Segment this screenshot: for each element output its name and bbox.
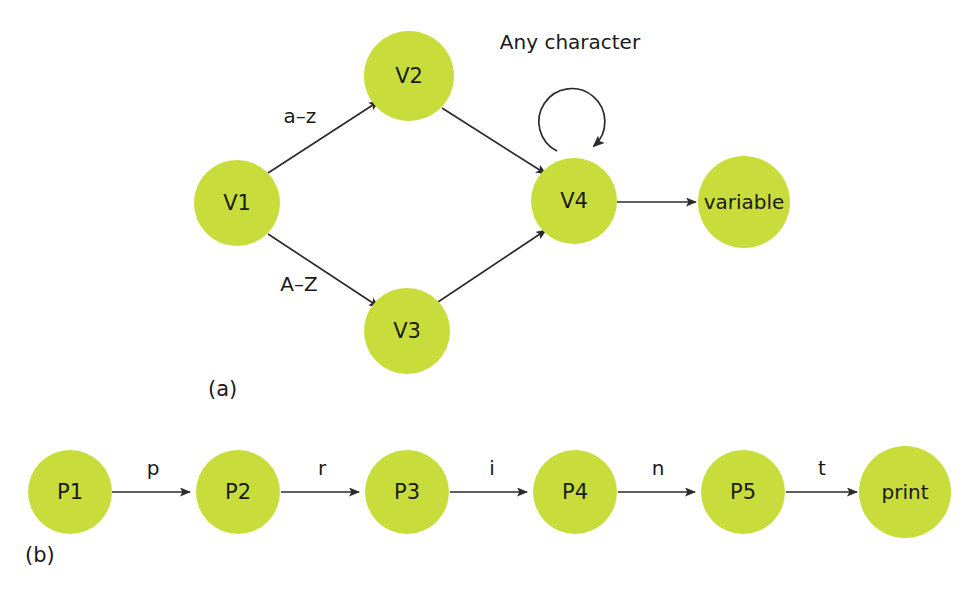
edge-label-r: r [318,456,327,480]
edge-label-A-Z: A–Z [280,272,317,296]
node-v4[interactable]: V4 [531,158,617,244]
panel-a-caption: (a) [208,377,237,401]
node-p3[interactable]: P3 [365,450,449,534]
node-v1-label: V1 [223,191,251,215]
node-v4-label: V4 [560,189,588,213]
node-variable-label: variable [704,190,785,214]
edge-v1-v3 [268,234,379,307]
figure-root: V1 V2 V3 V4 variable a–z A–Z Any charac [0,0,975,591]
node-p4-label: P4 [562,480,588,504]
node-print-label: print [882,480,929,504]
edge-label-n: n [652,456,665,480]
node-p2-label: P2 [225,480,251,504]
node-v1[interactable]: V1 [194,160,280,246]
edge-label-p: p [147,456,160,480]
node-p3-label: P3 [394,480,420,504]
edge-label-i: i [489,456,495,480]
node-p1[interactable]: P1 [28,450,112,534]
node-p5-label: P5 [730,480,756,504]
self-loop-v4 [539,89,605,151]
panel-a: V1 V2 V3 V4 variable a–z A–Z Any charac [194,30,790,401]
edge-v2-v4 [442,108,546,174]
edge-label-a-z: a–z [284,104,317,128]
node-v2-label: V2 [395,64,423,88]
node-v3[interactable]: V3 [364,288,450,374]
state-diagram-canvas: V1 V2 V3 V4 variable a–z A–Z Any charac [0,0,975,591]
edge-v3-v4 [438,230,546,302]
node-v3-label: V3 [393,319,421,343]
panel-a-edges [268,101,696,307]
node-print[interactable]: print [859,446,951,538]
panel-b: P1 P2 P3 P4 P5 print p [25,446,951,567]
edge-label-t: t [818,456,826,480]
node-p1-label: P1 [57,480,83,504]
node-variable[interactable]: variable [698,156,790,248]
node-p2[interactable]: P2 [196,450,280,534]
panel-b-caption: (b) [25,543,55,567]
node-v2[interactable]: V2 [364,31,454,121]
node-p5[interactable]: P5 [701,450,785,534]
self-loop-v4-arc [539,89,605,151]
self-loop-v4-label: Any character [500,30,641,54]
node-p4[interactable]: P4 [533,450,617,534]
